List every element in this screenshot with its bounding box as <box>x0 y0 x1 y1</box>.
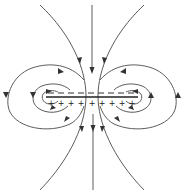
svg-text:+: + <box>58 99 65 108</box>
positive-charges: + + + + + + + + + <box>48 99 136 108</box>
arrow-down-icon <box>90 67 95 74</box>
svg-text:+: + <box>89 99 96 108</box>
svg-text:+: + <box>68 99 75 108</box>
arrow-icon <box>64 116 70 122</box>
arrow-down-icon <box>77 57 82 64</box>
arrow-icon <box>58 68 64 74</box>
arrow-down-icon <box>102 57 107 64</box>
charged-plate: + + + + + + + + + <box>46 93 138 108</box>
svg-text:+: + <box>109 99 116 108</box>
svg-text:+: + <box>129 99 136 108</box>
arrow-icon <box>114 116 120 122</box>
svg-text:+: + <box>119 99 126 108</box>
arrow-icon <box>120 68 126 74</box>
svg-text:+: + <box>78 99 85 108</box>
svg-text:+: + <box>48 99 55 108</box>
svg-text:+: + <box>99 99 106 108</box>
arrow-down-icon <box>91 125 96 132</box>
arrow-icon <box>30 92 36 98</box>
field-line-diagram: + + + + + + + + + <box>0 0 184 194</box>
arrow-icon <box>148 92 154 98</box>
